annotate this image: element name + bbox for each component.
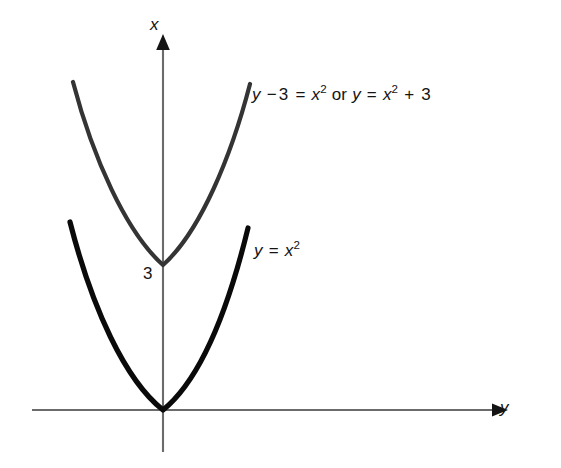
equation-label-shifted: y −3 = x2 or y = x2 + 3 (252, 85, 432, 105)
equation-label-basic: y = x2 (254, 241, 300, 261)
vertical-axis-arrowhead (156, 34, 170, 50)
equation-basic-exponent: 2 (293, 239, 300, 251)
parabola-transformation-figure: x y 3 y −3 = x2 or y = x2 + 3 y = x2 (0, 0, 561, 468)
equation-shifted-second-equals: = (366, 85, 378, 104)
curve-shifted-parabola (73, 82, 250, 265)
equation-basic-equals: = (268, 241, 280, 260)
equation-shifted-second-rhs-var: x (383, 85, 392, 104)
equation-shifted-exponent: 2 (320, 83, 327, 95)
equation-shifted-second-exponent: 2 (392, 83, 399, 95)
coordinate-plot (0, 0, 561, 468)
equation-basic-lhs-var: y (254, 241, 263, 260)
equation-shifted-or-word: or (332, 85, 348, 104)
equation-shifted-constant: 3 (420, 85, 432, 104)
axis-label-y: y (500, 398, 509, 418)
equation-shifted-minus: − (266, 85, 278, 104)
equation-shifted-three: 3 (278, 85, 290, 104)
equation-shifted-equals: = (294, 85, 306, 104)
equation-shifted-rhs-var: x (311, 85, 320, 104)
axis-label-x: x (150, 15, 159, 35)
curve-basic-parabola (70, 222, 248, 410)
vertex-offset-label: 3 (143, 264, 152, 284)
equation-shifted-lhs-var: y (252, 85, 261, 104)
equation-shifted-plus: + (403, 85, 415, 104)
equation-shifted-second-lhs-var: y (352, 85, 361, 104)
